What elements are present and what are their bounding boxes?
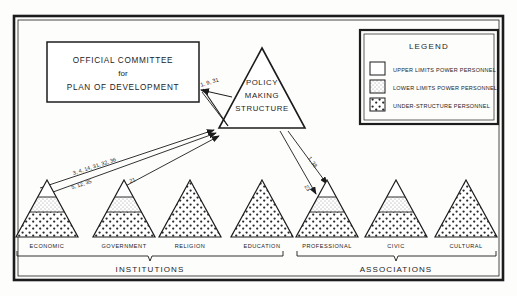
triangle-label-civic: CIVIC bbox=[387, 243, 404, 249]
white-swatch bbox=[370, 62, 385, 75]
light-stipple-swatch bbox=[370, 80, 385, 93]
triangle-label-education: EDUCATION bbox=[243, 243, 280, 249]
triangle-label-economic: ECONOMIC bbox=[30, 243, 65, 249]
official-committee-line3: PLAN OF DEVELOPMENT bbox=[67, 83, 179, 92]
legend-item-under-label: UNDER-STRUCTURE PERSONNEL bbox=[393, 103, 490, 109]
policy-line2: MAKING bbox=[245, 91, 279, 100]
triangle-label-cultural: CULTURAL bbox=[449, 243, 482, 249]
legend-item-lower-label: LOWER LIMITS POWER PERSONNEL bbox=[393, 85, 497, 91]
official-committee-box: OFFICIAL COMMITTEE for PLAN OF DEVELOPME… bbox=[47, 42, 199, 102]
official-committee-line1: OFFICIAL COMMITTEE bbox=[73, 56, 174, 65]
figure-canvas: OFFICIAL COMMITTEE for PLAN OF DEVELOPME… bbox=[0, 0, 517, 296]
triangle-label-professional: PROFESSIONAL bbox=[302, 243, 352, 249]
policy-line3: STRUCTURE bbox=[235, 104, 288, 113]
policy-line1: POLICY bbox=[246, 78, 278, 87]
institutions-label: INSTITUTIONS bbox=[116, 265, 185, 274]
dense-stipple-swatch bbox=[370, 98, 385, 111]
triangle-label-religion: RELIGION bbox=[175, 243, 206, 249]
official-committee-line2: for bbox=[118, 69, 128, 78]
legend-box: LEGEND UPPER LIMITS POWER PERSONNEL LOWE… bbox=[360, 30, 498, 124]
legend-item-upper-label: UPPER LIMITS POWER PERSONNEL bbox=[393, 67, 496, 73]
triangle-label-government: GOVERNMENT bbox=[101, 243, 146, 249]
associations-label: ASSOCIATIONS bbox=[360, 265, 433, 274]
legend-title: LEGEND bbox=[409, 42, 449, 51]
